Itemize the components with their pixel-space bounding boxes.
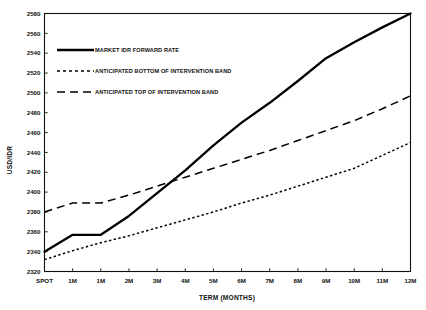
legend-label: MARKET IDR FORWARD RATE — [95, 47, 179, 53]
y-axis-title: USD/IDR — [6, 146, 13, 175]
y-tick-label: 2560 — [27, 30, 41, 37]
y-tick-label: 2440 — [27, 149, 41, 156]
x-tick-label: 10M — [348, 277, 360, 284]
chart-legend: MARKET IDR FORWARD RATEANTICIPATED BOTTO… — [57, 47, 232, 95]
y-tick-label: 2380 — [27, 208, 41, 215]
legend-label: ANTICIPATED BOTTOM OF INTERVENTION BAND — [95, 68, 232, 74]
x-tick-label: 7M — [265, 277, 274, 284]
x-tick-label: 4M — [181, 277, 190, 284]
chart-canvas: 2320234023602380240024202440246024802500… — [0, 0, 426, 310]
y-tick-label: 2400 — [27, 188, 41, 195]
x-axis-title: TERM (MONTHS) — [199, 294, 255, 302]
x-axis: SPOT1M1M2M3M4M5M6M7M8M9M10M11M12M — [36, 268, 416, 283]
y-tick-label: 2320 — [27, 268, 41, 275]
x-tick-label: 3M — [153, 277, 162, 284]
y-tick-label: 2460 — [27, 129, 41, 136]
y-tick-label: 2580 — [27, 10, 41, 17]
x-tick-label: 5M — [209, 277, 218, 284]
forward-rate-chart: 2320234023602380240024202440246024802500… — [0, 0, 426, 310]
x-tick-label: 11M — [376, 277, 388, 284]
x-tick-label: SPOT — [36, 277, 53, 284]
series-anticipated-bottom-of-intervention-band — [45, 143, 411, 260]
x-tick-label: 6M — [237, 277, 246, 284]
series-anticipated-top-of-intervention-band — [45, 96, 411, 212]
x-tick-label: 1M — [68, 277, 77, 284]
y-tick-label: 2360 — [27, 228, 41, 235]
y-tick-label: 2520 — [27, 69, 41, 76]
x-tick-label: 8M — [294, 277, 303, 284]
x-tick-label: 2M — [125, 277, 134, 284]
x-tick-label: 1M — [97, 277, 106, 284]
y-tick-label: 2540 — [27, 49, 41, 56]
legend-label: ANTICIPATED TOP OF INTERVENTION BAND — [95, 89, 218, 95]
y-tick-label: 2420 — [27, 168, 41, 175]
y-tick-label: 2480 — [27, 109, 41, 116]
y-tick-label: 2500 — [27, 89, 41, 96]
y-tick-label: 2340 — [27, 248, 41, 255]
x-tick-label: 9M — [322, 277, 331, 284]
x-tick-label: 12M — [404, 277, 416, 284]
